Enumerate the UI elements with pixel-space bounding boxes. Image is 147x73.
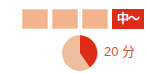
recipe-level-time-widget: 中〜 20 分 bbox=[0, 0, 147, 73]
rating-box-4-active[interactable]: 中〜 bbox=[112, 9, 144, 29]
difficulty-rating: 中〜 bbox=[22, 9, 144, 29]
rating-box-3[interactable] bbox=[82, 9, 108, 29]
duration-label: 20 分 bbox=[104, 45, 135, 58]
rating-box-1[interactable] bbox=[22, 9, 48, 29]
rating-box-2[interactable] bbox=[52, 9, 78, 29]
cooking-time-pie-chart bbox=[62, 35, 98, 71]
